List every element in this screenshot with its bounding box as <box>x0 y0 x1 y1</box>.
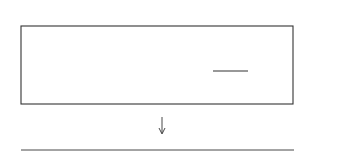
total-space-rectangle <box>21 26 293 104</box>
projection-arrow <box>159 117 165 134</box>
fibration-diagram <box>0 0 345 164</box>
